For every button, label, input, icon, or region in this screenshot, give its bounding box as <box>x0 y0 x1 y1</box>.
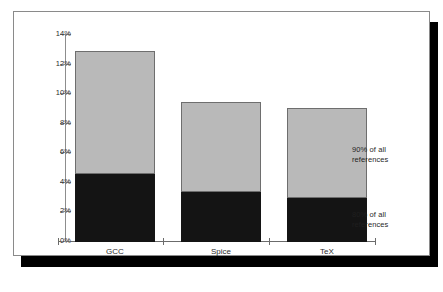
x-tick-right-edge <box>375 238 376 245</box>
y-tick-label: 8% <box>31 119 71 127</box>
y-tick-14: 14% <box>14 34 71 35</box>
figure: 14% 12% 10% 8% 6% 4% <box>0 0 443 292</box>
y-tick-label: 12% <box>31 60 71 68</box>
bar-segment-90pct[interactable] <box>75 51 155 174</box>
plot-area: 14% 12% 10% 8% 6% 4% <box>14 12 431 257</box>
x-axis-label-tex: TeX <box>287 247 367 256</box>
y-tick-6: 6% <box>14 152 71 153</box>
bar-segment-80pct[interactable] <box>75 174 155 242</box>
bar-segment-90pct[interactable] <box>181 102 261 192</box>
legend-label-90-percent: 90% of all references <box>352 145 388 165</box>
y-tick-4: 4% <box>14 182 71 183</box>
y-tick-label: 6% <box>31 148 71 156</box>
x-tick-spice-tex <box>269 238 270 245</box>
x-tick-gcc-spice <box>163 238 164 245</box>
y-tick-label: 14% <box>31 30 71 38</box>
y-tick-10: 10% <box>14 93 71 94</box>
y-tick-12: 12% <box>14 64 71 65</box>
x-tick-left-edge <box>58 238 59 245</box>
y-tick-8: 8% <box>14 123 71 124</box>
x-axis-label-spice: Spice <box>181 247 261 256</box>
bar-gcc[interactable] <box>75 51 155 242</box>
y-tick-label: 10% <box>31 89 71 97</box>
x-axis-label-gcc: GCC <box>75 247 155 256</box>
y-tick-2: 2% <box>14 211 71 212</box>
y-tick-label: 4% <box>31 178 71 186</box>
legend-label-80-percent: 80% of all references <box>352 210 388 230</box>
y-tick-label: 2% <box>31 207 71 215</box>
chart-frame: 14% 12% 10% 8% 6% 4% <box>13 11 430 256</box>
bar-spice[interactable] <box>181 102 261 243</box>
y-tick-label: 0% <box>31 237 71 245</box>
y-tick-0: 0% <box>14 241 71 242</box>
bar-segment-80pct[interactable] <box>181 192 261 242</box>
